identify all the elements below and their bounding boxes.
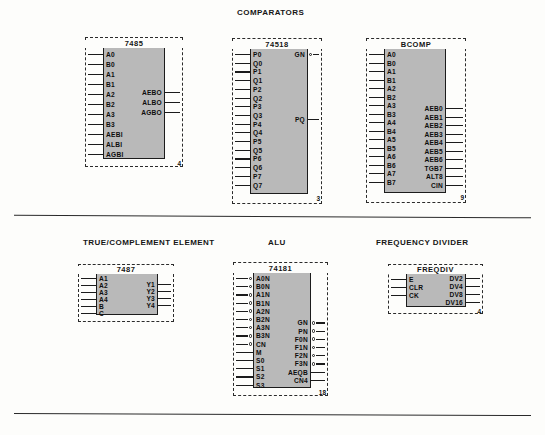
output-pin: Y4 (96, 301, 174, 310)
pin-lead (88, 124, 103, 125)
pin-lead (158, 298, 171, 299)
part-number-label: FREQDIV (388, 266, 483, 274)
pin-lead (446, 185, 463, 186)
pin-lead (81, 306, 96, 307)
pin-lead (81, 278, 96, 279)
part-number-label: 74518 (232, 41, 322, 49)
input-pin: AGBI (85, 150, 165, 159)
pin-lead (446, 108, 463, 109)
pin-lead (369, 88, 384, 89)
pin-count-label: 18 (319, 389, 326, 396)
pin-lead (236, 335, 248, 336)
inversion-bubble-icon (312, 362, 316, 366)
pin-label: AEBI (106, 130, 123, 139)
pin-lead (446, 159, 463, 160)
pin-lead (88, 64, 103, 65)
inversion-bubble-icon (249, 326, 253, 330)
pin-label: C (99, 309, 104, 318)
pin-label: P5 (253, 137, 262, 146)
input-pin: P1 (232, 67, 308, 76)
pin-lead (88, 84, 103, 85)
input-pin: Q4 (232, 128, 308, 137)
part-number-label: 7487 (78, 266, 174, 274)
output-pin: GN (250, 50, 322, 59)
pin-label: Q5 (253, 146, 262, 155)
pin-lead (81, 292, 96, 293)
pin-lead (88, 74, 103, 75)
pin-lead (369, 122, 384, 123)
input-pin: ALBI (85, 140, 165, 149)
pin-lead (316, 355, 325, 356)
inversion-bubble-icon (312, 321, 316, 325)
pin-lead (446, 142, 463, 143)
pin-lead (369, 114, 384, 115)
pin-label: A0 (106, 50, 115, 59)
pin-label: P3 (253, 102, 262, 111)
pin-lead (446, 176, 463, 177)
pin-label: GN (295, 50, 305, 59)
pin-lead (446, 134, 463, 135)
pin-lead (88, 154, 103, 155)
pin-lead (88, 134, 103, 135)
pin-lead (236, 385, 253, 386)
pin-lead (236, 311, 248, 312)
pin-lead (235, 89, 250, 90)
pin-lead (316, 363, 325, 364)
pin-lead (158, 284, 171, 285)
pin-label: CN4 (294, 376, 308, 385)
pin-lead (235, 141, 250, 142)
output-pin: CIN (384, 181, 466, 190)
pin-lead (236, 327, 248, 328)
input-pin: P2 (232, 85, 308, 94)
pin-label: DV16 (446, 298, 464, 307)
pin-lead (369, 97, 384, 98)
inversion-bubble-icon (312, 337, 316, 341)
inversion-bubble-icon (312, 346, 316, 350)
pin-lead (466, 294, 480, 295)
pin-lead (236, 376, 253, 377)
input-pin: Q5 (232, 146, 308, 155)
pin-lead (391, 279, 406, 280)
pin-label: Q4 (253, 128, 262, 137)
pin-label: Q7 (253, 181, 262, 190)
pin-label: B3 (106, 120, 115, 129)
pin-lead (236, 319, 248, 320)
pin-lead (236, 368, 253, 369)
input-pin: C (78, 309, 158, 318)
pin-lead (369, 105, 384, 106)
pin-lead (236, 303, 248, 304)
inversion-bubble-icon (249, 309, 253, 313)
section-divider-bottom (14, 413, 531, 416)
pin-lead (316, 347, 325, 348)
pin-lead (235, 167, 250, 168)
pin-lead (369, 148, 384, 149)
pin-label: AGBI (106, 150, 123, 159)
pin-label: Q0 (253, 59, 262, 68)
pin-label: Y4 (146, 301, 155, 310)
pin-lead (391, 287, 406, 288)
input-pin: Q7 (232, 181, 308, 190)
pin-lead (158, 305, 171, 306)
input-pin: B0 (85, 60, 165, 69)
pin-lead (369, 182, 384, 183)
input-pin: P7 (232, 172, 308, 181)
pin-lead (158, 291, 171, 292)
pin-label: P2 (253, 85, 262, 94)
section-heading-alu: ALU (268, 238, 286, 247)
pin-label: P6 (253, 154, 262, 163)
pin-lead (165, 102, 180, 103)
pin-lead (235, 98, 250, 99)
pin-lead (369, 80, 384, 81)
output-pin: AGBO (103, 108, 183, 117)
pin-label: ALBI (106, 140, 122, 149)
input-pin: Q2 (232, 94, 308, 103)
input-pin: B3 (85, 120, 165, 129)
pin-lead (81, 313, 96, 314)
pin-lead (88, 54, 103, 55)
pin-lead (369, 173, 384, 174)
pin-lead (311, 380, 325, 381)
pin-lead (235, 54, 250, 55)
logic-symbol-bcomp: BCOMP9A0B0A1B1A2B2A3B3A4B4A5B5A6B6A7B7AE… (366, 38, 466, 203)
inversion-bubble-icon (249, 277, 253, 281)
pin-label: P1 (253, 67, 262, 76)
